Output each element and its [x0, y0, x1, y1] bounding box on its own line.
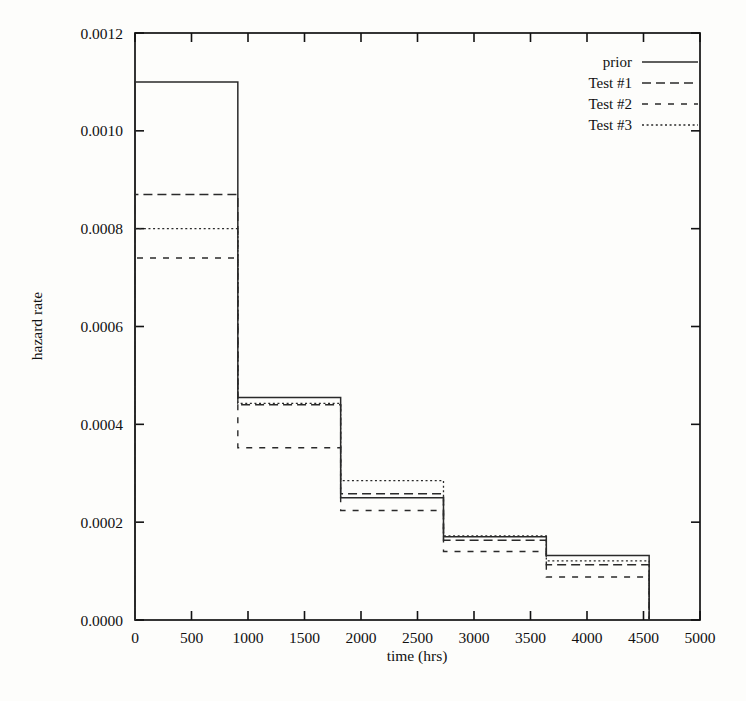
- y-tick-label: 0.0010: [80, 122, 123, 139]
- x-tick-label: 4500: [628, 629, 659, 646]
- y-axis-tick-labels: 0.00000.00020.00040.00060.00080.00100.00…: [80, 25, 123, 629]
- y-tick-label: 0.0012: [80, 25, 123, 42]
- series-test-2: [135, 258, 649, 620]
- series-prior: [135, 82, 649, 620]
- x-tick-label: 3500: [515, 629, 546, 646]
- x-tick-label: 5000: [685, 629, 716, 646]
- legend-label-2: Test #1: [588, 75, 632, 91]
- x-tick-label: 2500: [402, 629, 433, 646]
- y-tick-label: 0.0006: [80, 318, 123, 335]
- x-tick-label: 2000: [346, 629, 377, 646]
- chart-canvas: 0500100015002000250030003500400045005000…: [0, 0, 746, 701]
- y-tick-label: 0.0002: [80, 514, 123, 531]
- x-tick-label: 3000: [459, 629, 490, 646]
- x-tick-label: 1000: [233, 629, 264, 646]
- y-axis-title: hazard rate: [28, 292, 45, 361]
- x-axis-tick-labels: 0500100015002000250030003500400045005000: [131, 629, 716, 646]
- chart-legend: priorTest #1Test #2Test #3: [560, 44, 700, 133]
- y-tick-label: 0.0008: [80, 220, 123, 237]
- series-test-3: [135, 229, 649, 620]
- series-group: [135, 82, 649, 620]
- y-tick-label: 0.0004: [80, 416, 123, 433]
- legend-label-1: prior: [603, 54, 632, 70]
- hazard-rate-step-chart: 0500100015002000250030003500400045005000…: [0, 0, 746, 701]
- x-tick-label: 4000: [572, 629, 603, 646]
- y-tick-label: 0.0000: [80, 612, 123, 629]
- x-tick-label: 1500: [289, 629, 320, 646]
- x-tick-label: 0: [131, 629, 139, 646]
- legend-label-4: Test #3: [588, 117, 632, 133]
- legend-label-3: Test #2: [588, 96, 632, 112]
- x-axis-title: time (hrs): [387, 647, 448, 665]
- x-tick-label: 500: [180, 629, 204, 646]
